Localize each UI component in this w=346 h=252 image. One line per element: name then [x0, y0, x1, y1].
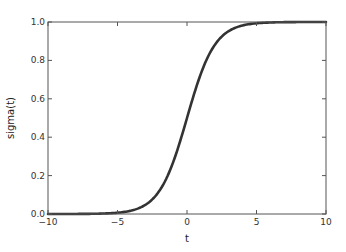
x-tick-label: 5 [254, 217, 260, 227]
sigmoid-line [48, 22, 326, 214]
x-tick-label: 10 [320, 217, 332, 227]
y-axis-label: sigma(t) [5, 97, 16, 139]
y-axis-ticks: 0.00.20.40.60.81.0 [31, 17, 326, 219]
y-tick-label: 0.0 [31, 209, 46, 219]
y-tick-label: 0.2 [31, 171, 45, 181]
y-tick-label: 0.4 [31, 132, 46, 142]
x-tick-label: −5 [111, 217, 124, 227]
x-axis-label: t [185, 233, 189, 244]
sigmoid-chart: −10−50510 0.00.20.40.60.81.0 t sigma(t) [0, 0, 346, 252]
y-tick-label: 0.8 [31, 55, 46, 65]
y-tick-label: 1.0 [31, 17, 46, 27]
y-tick-label: 0.6 [31, 94, 46, 104]
x-tick-label: 0 [184, 217, 190, 227]
plot-area [48, 22, 326, 214]
